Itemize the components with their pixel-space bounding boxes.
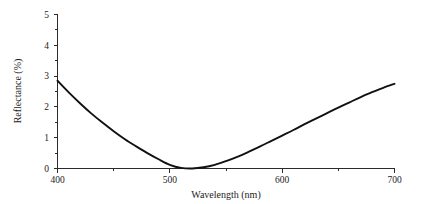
- y-tick-label-2: 2: [44, 102, 49, 112]
- y-tick-label-0: 0: [44, 164, 49, 174]
- chart-background: [0, 0, 421, 204]
- y-tick-label-3: 3: [44, 71, 49, 81]
- chart-figure: 0 1 2 3 4 5 400 500 600 700 Wavelength (…: [0, 0, 421, 204]
- x-tick-label-400: 400: [50, 175, 65, 185]
- x-tick-label-600: 600: [275, 175, 290, 185]
- reflectance-line-chart: 0 1 2 3 4 5 400 500 600 700 Wavelength (…: [0, 0, 421, 204]
- x-tick-label-500: 500: [163, 175, 178, 185]
- y-tick-label-5: 5: [44, 10, 49, 20]
- x-axis-title: Wavelength (nm): [191, 189, 260, 201]
- y-tick-label-1: 1: [44, 133, 49, 143]
- y-tick-label-4: 4: [44, 41, 49, 51]
- x-tick-label-700: 700: [387, 175, 402, 185]
- y-axis-title: Reflectance (%): [12, 59, 24, 124]
